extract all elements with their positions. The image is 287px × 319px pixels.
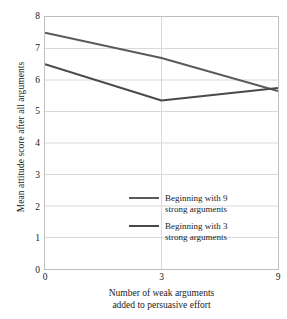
y-tick-label: 8: [24, 11, 40, 21]
x-tick-label: 3: [152, 272, 172, 283]
x-axis-title-line-2: added to persuasive effort: [44, 300, 279, 312]
y-tick-label: 1: [24, 233, 40, 243]
legend-label-line-1: Beginning with 3: [165, 221, 228, 232]
x-tick-label: 9: [268, 272, 287, 283]
y-tick-label: 2: [24, 202, 40, 212]
legend-label-line-1: Beginning with 9: [165, 193, 228, 204]
line-chart-figure: Mean attitude score after all arguments …: [0, 0, 287, 319]
legend-label-series-2: Beginning with 3 strong arguments: [165, 221, 228, 242]
y-tick-label: 5: [24, 106, 40, 116]
y-tick-label: 3: [24, 170, 40, 180]
x-axis-title-line-1: Number of weak arguments: [44, 288, 279, 300]
y-tick-label: 4: [24, 138, 40, 148]
legend-label-line-2: strong arguments: [165, 204, 228, 215]
chart-legend: Beginning with 9 strong arguments Beginn…: [129, 193, 279, 249]
legend-entry-series-1: Beginning with 9 strong arguments: [129, 193, 279, 214]
x-tick-label: 0: [35, 272, 55, 283]
x-axis-title: Number of weak arguments added to persua…: [44, 288, 279, 311]
y-tick-label: 6: [24, 75, 40, 85]
legend-label-series-1: Beginning with 9 strong arguments: [165, 193, 228, 214]
x-axis-tick-labels: 0 3 9: [44, 272, 279, 284]
y-tick-label: 7: [24, 43, 40, 53]
legend-label-line-2: strong arguments: [165, 232, 228, 243]
legend-line-swatch-icon: [129, 221, 159, 232]
legend-entry-series-2: Beginning with 3 strong arguments: [129, 221, 279, 242]
plot-area: Beginning with 9 strong arguments Beginn…: [44, 16, 279, 270]
y-axis-tick-labels: 8 7 6 5 4 3 2 1 0: [24, 16, 40, 270]
legend-line-swatch-icon: [129, 193, 159, 204]
